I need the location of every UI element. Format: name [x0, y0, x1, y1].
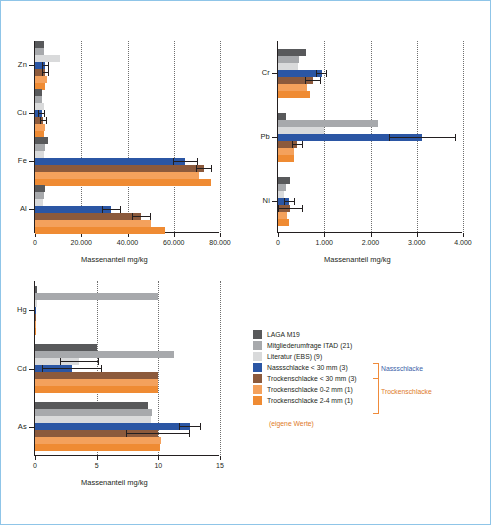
y-axis-category-label: Fe: [5, 156, 27, 165]
legend-label: Trockenschlacke < 30 mm (3): [267, 374, 356, 383]
brace-wet: [373, 363, 379, 379]
error-bar: [126, 430, 190, 437]
gridline: [463, 41, 465, 232]
bar: [35, 179, 211, 186]
x-tick: [174, 233, 175, 237]
x-tick: [220, 233, 221, 237]
x-tick-label: 1.000: [304, 239, 344, 246]
bar: [35, 227, 165, 234]
legend-swatch: [253, 352, 262, 361]
legend-item: Literatur (EBS) (9): [253, 351, 433, 362]
error-bar: [278, 205, 303, 212]
error-bar: [292, 141, 303, 148]
bar: [278, 148, 294, 155]
x-axis-title-top-right: Massenanteil mg/kg: [324, 255, 391, 264]
error-bar-cap: [42, 62, 43, 69]
brace-dry: [373, 378, 379, 414]
legend-item: LAGA M19: [253, 329, 433, 340]
x-tick-label: 80.000: [200, 239, 240, 246]
error-bar-cap: [284, 198, 285, 205]
gridline: [81, 41, 83, 232]
plot-area-top-right: 01.0002.0003.0004.000CrPbNi: [277, 41, 462, 233]
x-tick-label: 60.000: [154, 239, 194, 246]
error-bar-line: [179, 426, 201, 427]
x-tick-label: 3.000: [397, 239, 437, 246]
error-bar: [42, 69, 49, 76]
bar: [35, 185, 45, 192]
bar: [35, 293, 158, 300]
error-bar: [389, 134, 457, 141]
error-bar-cap: [173, 158, 174, 165]
x-tick: [463, 233, 464, 237]
x-tick-label: 0: [258, 239, 298, 246]
bar: [35, 76, 47, 83]
error-bar-cap: [305, 77, 306, 84]
gridline: [128, 41, 130, 232]
bar: [35, 372, 158, 379]
error-bar-line: [196, 168, 212, 169]
error-bar-cap: [179, 423, 180, 430]
legend-swatch: [253, 374, 262, 383]
bar: [35, 444, 160, 451]
bar: [35, 300, 37, 307]
y-axis-category-label: Cd: [5, 364, 27, 373]
error-bar-line: [305, 80, 322, 81]
bar: [278, 63, 298, 70]
x-axis-title-bottom: Massenanteil mg/kg: [81, 478, 148, 487]
legend-note: (eigene Werte): [269, 420, 314, 427]
bar: [35, 158, 185, 165]
legend-item: Trockenschlacke 2-4 mm (1): [253, 395, 433, 406]
bar: [278, 56, 299, 63]
error-bar-line: [60, 361, 99, 362]
bar: [35, 124, 45, 131]
plot-area-bottom: 051015HgCdAs: [34, 281, 219, 456]
legend-label: Trockenschlacke 2-4 mm (1): [267, 396, 353, 405]
error-bar-line: [102, 209, 121, 210]
y-axis-category-label: Hg: [5, 305, 27, 314]
legend-label: Mitgliederumfrage ITAD (21): [267, 341, 352, 350]
bar: [35, 402, 148, 409]
bar: [35, 172, 199, 179]
x-tick-label: 0: [15, 239, 55, 246]
chart-top-left: 020.00040.00060.00080.000ZnCuFeAl Massen…: [1, 31, 236, 261]
x-tick-label: 40.000: [108, 239, 148, 246]
error-bar-line: [389, 137, 457, 138]
chart-top-right: 01.0002.0003.0004.000CrPbNi Massenanteil…: [244, 31, 484, 261]
bar: [35, 386, 158, 393]
error-bar-cap: [102, 206, 103, 213]
error-bar: [284, 198, 295, 205]
group-label-dry: Trockenschlacke: [381, 388, 432, 395]
legend-label: LAGA M19: [267, 330, 300, 339]
error-bar: [173, 158, 198, 165]
error-bar-cap: [200, 423, 201, 430]
error-bar: [38, 110, 45, 117]
error-bar-cap: [60, 358, 61, 365]
bar: [35, 437, 161, 444]
bar: [278, 113, 286, 120]
legend-swatch: [253, 385, 262, 394]
x-tick-label: 10: [138, 462, 178, 469]
bar: [35, 144, 45, 151]
error-bar-cap: [48, 62, 49, 69]
gridline: [220, 281, 222, 455]
error-bar-cap: [46, 117, 47, 124]
x-tick-label: 15: [200, 462, 240, 469]
x-tick: [97, 456, 98, 460]
error-bar: [132, 213, 151, 220]
x-tick: [278, 233, 279, 237]
error-bar-cap: [48, 69, 49, 76]
bar: [35, 41, 44, 48]
error-bar: [102, 206, 121, 213]
y-axis-category-label: Pb: [248, 132, 270, 141]
bar: [278, 84, 307, 91]
figure-page: 020.00040.00060.00080.000ZnCuFeAl Massen…: [0, 0, 491, 525]
error-bar-line: [132, 216, 151, 217]
error-bar-cap: [132, 213, 133, 220]
bar: [278, 184, 286, 191]
x-tick-label: 20.000: [61, 239, 101, 246]
error-bar-cap: [189, 430, 190, 437]
bar: [35, 96, 42, 103]
x-tick-label: 5: [77, 462, 117, 469]
bar: [35, 213, 141, 220]
x-tick: [81, 233, 82, 237]
